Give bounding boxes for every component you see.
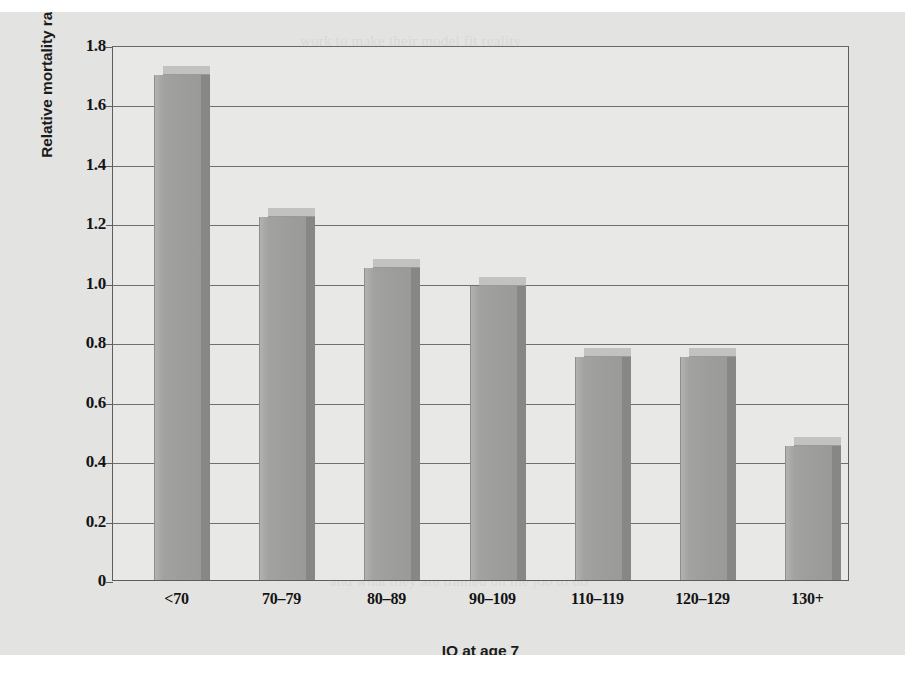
x-axis-tick-label: 80–89: [341, 590, 432, 608]
bar-front-face: [785, 446, 832, 580]
bar-front-face: [575, 357, 622, 580]
figure-panel: work to make their model fit realityrese…: [0, 12, 905, 655]
bar-side-face: [832, 446, 841, 580]
bar-front-face: [154, 75, 201, 580]
gridline: [113, 106, 848, 107]
bar: [785, 437, 832, 580]
y-axis-tick-mark: [106, 344, 113, 345]
bar-top-face: [689, 348, 736, 357]
bar-top-face: [794, 437, 841, 446]
bar-side-face: [517, 286, 526, 580]
y-axis-tick-label: 1.4: [60, 155, 106, 175]
bar: [575, 348, 622, 580]
bar-front-face: [680, 357, 727, 580]
bar: [680, 348, 727, 580]
y-axis-tick-label: 1.6: [60, 95, 106, 115]
y-axis-tick-mark: [106, 285, 113, 286]
bar-top-face: [373, 259, 420, 268]
y-axis-tick-mark: [106, 463, 113, 464]
y-axis-tick-label: 0: [60, 571, 106, 591]
y-axis-tick-mark: [106, 106, 113, 107]
bar-side-face: [622, 357, 631, 580]
y-axis-tick-label: 0.8: [60, 333, 106, 353]
gridline: [113, 225, 848, 226]
x-axis-tick-label: 90–109: [447, 590, 538, 608]
y-axis-tick-label: 0.6: [60, 393, 106, 413]
y-axis-tick-label: 0.2: [60, 512, 106, 532]
bar-top-face: [268, 208, 315, 217]
x-axis-tick-label: 70–79: [236, 590, 327, 608]
y-axis-tick-label: 1.8: [60, 36, 106, 56]
bar-top-face: [479, 277, 526, 286]
plot-area: [112, 46, 849, 581]
copyright-slot: © Cengage Learning 2013: [885, 467, 905, 655]
bar-side-face: [727, 357, 736, 580]
y-axis-tick-mark: [106, 47, 113, 48]
y-axis-tick-mark: [106, 582, 113, 583]
y-axis-tick-mark: [106, 166, 113, 167]
bar: [470, 277, 517, 580]
bar: [154, 66, 201, 580]
y-axis-tick-label: 1.0: [60, 274, 106, 294]
x-axis-tick-label: 130+: [762, 590, 853, 608]
bar-side-face: [306, 217, 315, 580]
bar-side-face: [201, 75, 210, 580]
gridline: [113, 166, 848, 167]
bar-top-face: [163, 66, 210, 75]
bar: [364, 259, 411, 580]
bar: [259, 208, 306, 580]
bar-side-face: [411, 268, 420, 580]
x-axis-tick-label: 120–129: [657, 590, 748, 608]
bar-front-face: [470, 286, 517, 580]
y-axis-tick-mark: [106, 404, 113, 405]
y-axis-tick-label: 0.4: [60, 452, 106, 472]
x-axis-title: IQ at age 7: [112, 642, 849, 655]
bar-front-face: [259, 217, 306, 580]
bar-front-face: [364, 268, 411, 580]
y-axis-tick-mark: [106, 225, 113, 226]
bar-top-face: [584, 348, 631, 357]
x-axis-title-label: IQ at age 7: [442, 642, 519, 655]
x-axis-tick-label: 110–119: [552, 590, 643, 608]
y-axis-tick-label: 1.2: [60, 214, 106, 234]
y-axis-tick-labels: 00.20.40.60.81.01.21.41.61.8: [52, 12, 106, 655]
y-axis-tick-mark: [106, 523, 113, 524]
x-axis-tick-label: <70: [131, 590, 222, 608]
